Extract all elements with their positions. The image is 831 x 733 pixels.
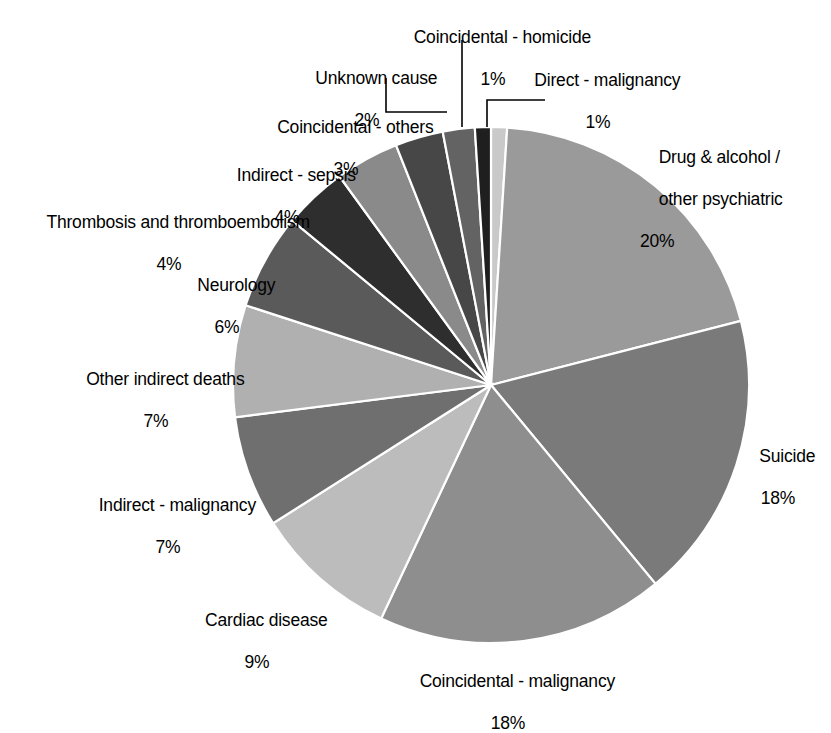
label-coincidental-malignancy-pct: 18%	[372, 713, 644, 733]
label-unknown-cause-text: Unknown cause	[315, 68, 437, 88]
label-other-indirect-deaths: Other indirect deaths 7%	[36, 348, 276, 474]
label-suicide-text: Suicide	[759, 446, 815, 466]
label-neurology-text: Neurology	[197, 275, 275, 295]
label-coincidental-homicide-text: Coincidental - homicide	[414, 27, 591, 47]
label-other-indirect-deaths-pct: 7%	[36, 411, 276, 432]
label-cardiac-disease-text: Cardiac disease	[205, 610, 327, 630]
label-coincidental-others-text: Coincidental - others	[277, 117, 433, 137]
label-indirect-malignancy-pct: 7%	[50, 537, 286, 558]
label-cardiac-disease: Cardiac disease 9%	[148, 589, 366, 715]
label-coincidental-malignancy: Coincidental - malignancy 18%	[372, 650, 644, 733]
label-drug-alcohol-pct: 20%	[640, 231, 826, 252]
label-suicide: Suicide 18%	[730, 425, 826, 551]
label-indirect-sepsis-text: Indirect - sepsis	[237, 165, 356, 185]
label-direct-malignancy-text: Direct - malignancy	[534, 70, 680, 90]
label-indirect-malignancy: Indirect - malignancy 7%	[50, 474, 286, 600]
label-cardiac-disease-pct: 9%	[148, 652, 366, 673]
label-thrombosis-text: Thrombosis and thromboembolism	[46, 212, 309, 232]
label-drug-alcohol-line1: Drug & alcohol /	[659, 147, 780, 167]
label-other-indirect-deaths-text: Other indirect deaths	[86, 369, 244, 389]
label-neurology-pct: 6%	[144, 317, 310, 338]
label-indirect-malignancy-text: Indirect - malignancy	[99, 495, 256, 515]
label-drug-alcohol-line2: other psychiatric	[659, 189, 783, 209]
label-drug-alcohol: Drug & alcohol / other psychiatric 20%	[640, 126, 826, 294]
label-coincidental-malignancy-text: Coincidental - malignancy	[420, 671, 615, 691]
label-suicide-pct: 18%	[730, 488, 826, 509]
